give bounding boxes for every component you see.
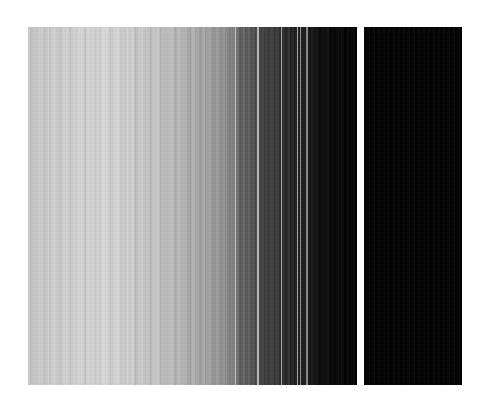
stripe-column xyxy=(364,27,462,385)
main-stripe-canvas xyxy=(28,27,357,385)
stripe-column xyxy=(349,27,357,385)
figure-root xyxy=(0,0,485,408)
right-heatmap-panel xyxy=(364,27,462,385)
right-stripe-canvas xyxy=(364,27,462,385)
main-heatmap-panel xyxy=(28,27,357,385)
